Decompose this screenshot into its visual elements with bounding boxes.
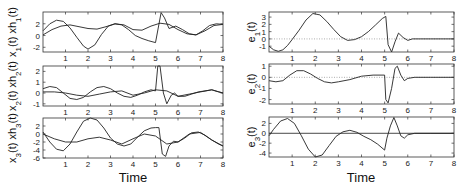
time-label-right: Time [347,170,375,185]
y-tick-label: -2 [33,138,41,147]
x-tick-label: 7 [198,108,203,117]
x-tick-label: 6 [176,54,181,63]
y-tick-label: 2 [36,122,41,131]
panel-right-2: 12345678-2-101e2(t) [245,62,457,115]
x-tick-label: 5 [382,159,387,168]
x-tick-label: 8 [221,108,226,117]
x-tick-label: 4 [359,54,364,63]
axes-frame [269,117,454,157]
y-tick-label: -4 [33,146,41,155]
axes-frame [43,118,223,158]
x-tick-label: 6 [406,106,411,115]
y-tick-label: 0 [36,130,41,139]
x-tick-label: 1 [63,108,68,117]
x-tick-label: 3 [336,54,341,63]
y-axis-label: e1(t) [245,22,262,43]
x-tick-label: 3 [108,108,113,117]
x-tick-label: 7 [429,159,434,168]
axes-frame [43,66,223,106]
axes-frame [269,12,454,52]
x-tick-label: 7 [429,54,434,63]
y-tick-label: -2 [259,96,267,105]
x-tick-label: 6 [406,159,411,168]
y-axis-label: x1(t) xh1(t) [6,7,23,57]
y-tick-label: 1 [262,62,267,71]
x-tick-label: 8 [221,160,226,169]
x-tick-label: 2 [313,106,318,115]
x-tick-label: 6 [176,108,181,117]
x-tick-label: 1 [290,159,295,168]
y-tick-label: 0 [36,32,41,41]
y-tick-label: -4 [259,149,267,158]
series-e1 [269,14,454,53]
x-tick-label: 2 [86,54,91,63]
x-tick-label: 5 [382,106,387,115]
x-tick-label: 3 [336,159,341,168]
x-tick-label: 3 [108,160,113,169]
x-tick-label: 4 [131,160,136,169]
x-tick-label: 7 [198,160,203,169]
axes-frame [269,64,454,104]
x-tick-label: 1 [63,54,68,63]
y-tick-label: 3 [262,13,267,22]
time-label-left: Time [119,170,147,185]
y-tick-label: 2 [36,67,41,76]
x-tick-label: 2 [86,160,91,169]
panel-right-3: 12345678-4-202e3(t) [245,117,457,168]
series-e2 [269,66,454,103]
x-tick-label: 5 [153,160,158,169]
y-tick-label: 0 [262,73,267,82]
figure: 12345678-202x1(t) xh1(t)12345678-1012x2(… [0,0,467,189]
panel-left-2: 12345678-1012x2(t) xh2(t) [6,61,226,117]
x-tick-label: 7 [198,54,203,63]
x-tick-label: 5 [382,54,387,63]
x-tick-label: 2 [313,54,318,63]
y-tick-label: 0 [36,89,41,98]
x-tick-label: 8 [452,106,457,115]
x-tick-label: 1 [63,160,68,169]
axes-frame [43,12,223,52]
series-x1 [43,13,223,50]
x-tick-label: 7 [429,106,434,115]
x-tick-label: 1 [290,106,295,115]
x-tick-label: 4 [359,159,364,168]
panel-left-1: 12345678-202x1(t) xh1(t) [6,7,226,63]
y-tick-label: 1 [36,78,41,87]
x-tick-label: 6 [406,54,411,63]
panel-left-3: 12345678-6-4-202x3(t) xh3(t) [6,113,226,169]
x-tick-label: 8 [452,54,457,63]
x-tick-label: 6 [176,160,181,169]
y-tick-label: -2 [33,43,41,52]
x-tick-label: 2 [86,108,91,117]
panel-right-1: 12345678-10123e1(t) [245,12,457,63]
x-tick-label: 2 [313,159,318,168]
x-tick-label: 4 [131,54,136,63]
x-tick-label: 5 [153,108,158,117]
x-tick-label: 3 [108,54,113,63]
x-tick-label: 3 [336,106,341,115]
x-tick-label: 5 [153,54,158,63]
y-tick-label: -1 [33,100,41,109]
series-xh2 [43,90,223,97]
y-tick-label: -6 [33,154,41,163]
y-tick-label: 2 [36,20,41,29]
x-tick-label: 4 [131,108,136,117]
series-x3 [43,118,223,156]
y-axis-label: x3(t) xh3(t) [6,113,23,163]
x-tick-label: 1 [290,54,295,63]
series-e3 [269,118,454,158]
series-x2 [43,66,223,104]
x-tick-label: 8 [452,159,457,168]
x-tick-label: 4 [359,106,364,115]
y-tick-label: 2 [262,119,267,128]
y-tick-label: 0 [262,129,267,138]
y-axis-label: x2(t) xh2(t) [6,61,23,111]
x-tick-label: 8 [221,54,226,63]
